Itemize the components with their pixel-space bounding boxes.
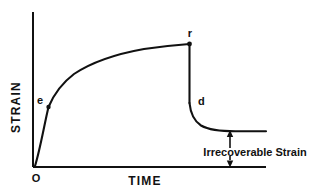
origin-label: O [32,172,41,184]
delayed-recovery-curve [190,103,267,131]
point-label-r: r [188,27,193,39]
y-axis-label: STRAIN [9,81,23,133]
point-marker-r [187,42,192,47]
creep-curve [35,44,190,166]
point-label-d: d [198,95,205,107]
x-axis-label: TIME [128,174,161,188]
point-label-e: e [37,94,43,106]
point-marker-e [46,105,50,109]
creep-recovery-figure: STRAIN TIME O e r d Irrecoverable Strain [0,0,319,194]
irrecoverable-strain-label: Irrecoverable Strain [203,146,307,158]
